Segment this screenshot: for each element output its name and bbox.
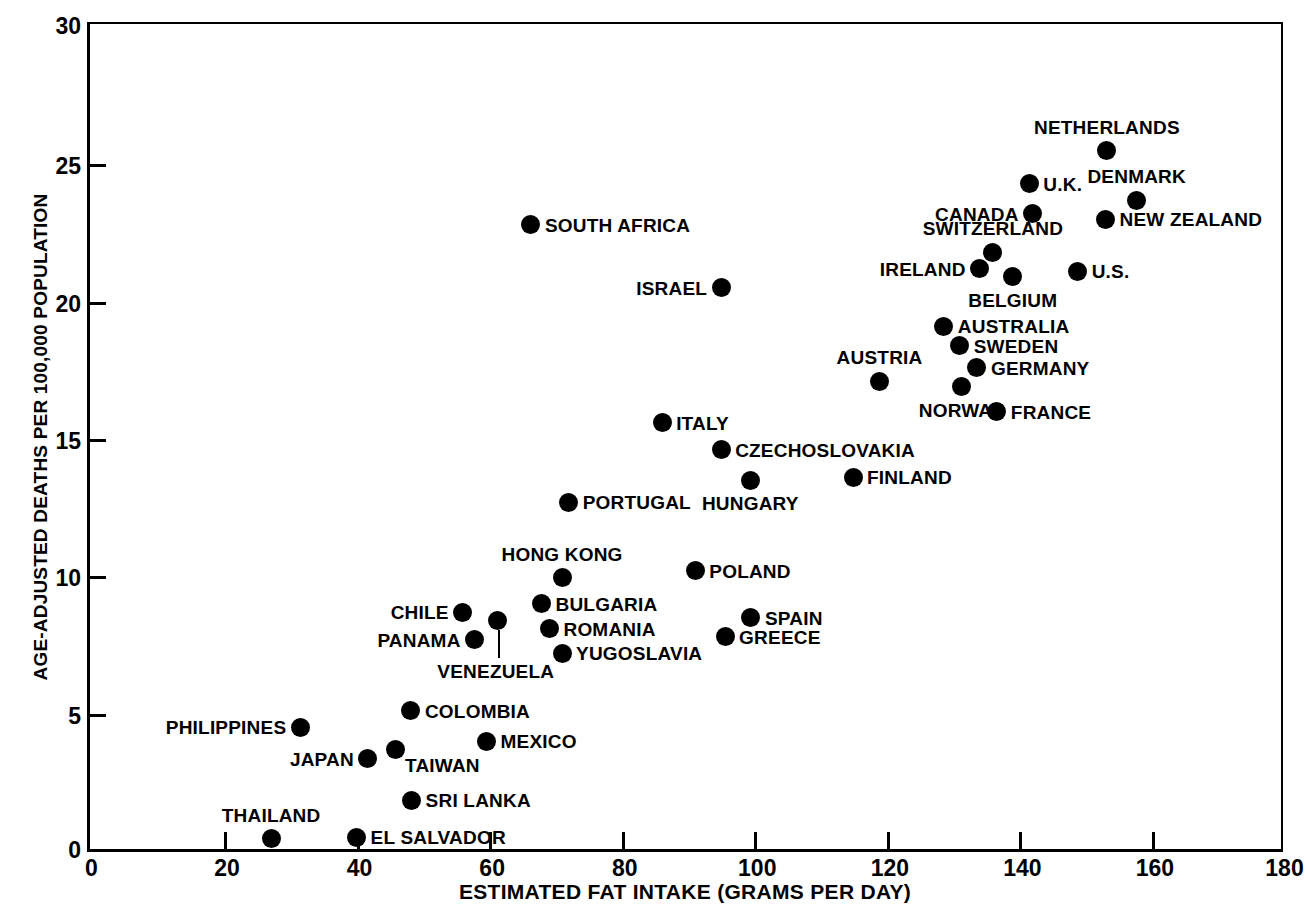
- data-point-label: U.K.: [1043, 174, 1082, 193]
- x-axis-tick-label: 40: [330, 857, 390, 880]
- data-point[interactable]: [559, 493, 578, 512]
- data-point-label: BULGARIA: [556, 594, 658, 613]
- data-point-label: SOUTH AFRICA: [545, 215, 690, 234]
- y-axis-title: AGE-ADJUSTED DEATHS PER 100,000 POPULATI…: [26, 22, 56, 852]
- data-point[interactable]: [686, 561, 705, 580]
- data-point[interactable]: [291, 718, 310, 737]
- data-point[interactable]: [741, 471, 760, 490]
- data-point-label: SPAIN: [765, 608, 823, 627]
- data-point[interactable]: [653, 413, 672, 432]
- data-point[interactable]: [970, 259, 989, 278]
- x-axis-tick-label: 60: [462, 857, 522, 880]
- x-axis-tick-label: 100: [727, 857, 787, 880]
- data-point[interactable]: [1003, 267, 1022, 286]
- data-point[interactable]: [521, 215, 540, 234]
- data-point[interactable]: [465, 630, 484, 649]
- data-point[interactable]: [532, 594, 551, 613]
- x-axis-tick-label: 140: [992, 857, 1052, 880]
- x-axis-tick: 160: [1152, 832, 1155, 849]
- y-axis-tick-label: 10: [55, 567, 81, 590]
- data-point[interactable]: [402, 791, 421, 810]
- y-axis-tick-label: 5: [68, 705, 81, 728]
- data-point-label: GERMANY: [991, 358, 1090, 377]
- data-point[interactable]: [716, 627, 735, 646]
- data-point[interactable]: [477, 732, 496, 751]
- data-point-label: THAILAND: [222, 806, 321, 825]
- data-point-label: SRI LANKA: [426, 791, 531, 810]
- data-point-label: PHILIPPINES: [166, 718, 286, 737]
- x-axis-tick-label: 20: [197, 857, 257, 880]
- y-axis-tick-label: 15: [55, 430, 81, 453]
- y-axis-tick: 10: [90, 576, 106, 579]
- data-point-label: DENMARK: [1087, 167, 1186, 186]
- y-axis-tick: 15: [90, 439, 106, 442]
- y-axis-tick: 25: [90, 164, 106, 167]
- data-point-label: TAIWAN: [405, 756, 480, 775]
- data-point[interactable]: [488, 611, 507, 630]
- y-axis-tick-label: 20: [55, 293, 81, 316]
- data-point[interactable]: [844, 468, 863, 487]
- data-point-label: HUNGARY: [702, 494, 799, 513]
- y-axis-tick-label: 30: [55, 15, 81, 38]
- x-axis-tick: 100: [754, 832, 757, 849]
- data-point-label: CZECHOSLOVAKIA: [735, 440, 915, 459]
- plot-area: 051015202530 020406080100120140160180 NE…: [87, 22, 1283, 852]
- data-point-label: JAPAN: [290, 749, 354, 768]
- data-point-label: ROMANIA: [563, 619, 655, 638]
- data-point-label: FRANCE: [1011, 402, 1091, 421]
- data-point[interactable]: [1096, 210, 1115, 229]
- x-axis-title: ESTIMATED FAT INTAKE (GRAMS PER DAY): [87, 880, 1283, 904]
- y-axis-tick: 5: [90, 714, 106, 717]
- data-point-label: ITALY: [676, 413, 729, 432]
- data-point-label: GREECE: [739, 627, 820, 646]
- data-point[interactable]: [401, 701, 420, 720]
- data-point-label: HONG KONG: [502, 545, 623, 564]
- data-point[interactable]: [934, 317, 953, 336]
- data-point[interactable]: [540, 619, 559, 638]
- data-point[interactable]: [712, 278, 731, 297]
- data-point-label: NEW ZEALAND: [1120, 210, 1263, 229]
- data-point-label: YUGOSLAVIA: [576, 644, 702, 663]
- x-axis-tick-label: 80: [595, 857, 655, 880]
- data-point-label: EL SALVADOR: [371, 828, 506, 847]
- data-point[interactable]: [262, 829, 281, 848]
- data-point[interactable]: [553, 644, 572, 663]
- data-point[interactable]: [870, 372, 889, 391]
- data-point-label: AUSTRALIA: [958, 317, 1070, 336]
- data-point[interactable]: [952, 377, 971, 396]
- data-point-label: MEXICO: [501, 732, 577, 751]
- data-point-label: BELGIUM: [968, 291, 1057, 310]
- data-point[interactable]: [967, 358, 986, 377]
- data-point[interactable]: [386, 740, 405, 759]
- data-point[interactable]: [1068, 262, 1087, 281]
- data-point[interactable]: [983, 243, 1002, 262]
- data-point[interactable]: [1127, 191, 1146, 210]
- data-point[interactable]: [950, 336, 969, 355]
- x-axis-tick: 80: [622, 832, 625, 849]
- data-point-label: VENEZUELA: [437, 662, 554, 681]
- x-axis-tick: 120: [887, 832, 890, 849]
- data-point[interactable]: [453, 603, 472, 622]
- data-point[interactable]: [347, 828, 366, 847]
- data-point-label: AUSTRIA: [837, 348, 923, 367]
- data-point-label: FINLAND: [867, 468, 952, 487]
- data-point[interactable]: [712, 440, 731, 459]
- data-point-label: SWITZERLAND: [923, 219, 1063, 238]
- data-point-label: PORTUGAL: [583, 493, 691, 512]
- y-axis-tick-label: 25: [55, 155, 81, 178]
- data-point-label: PANAMA: [377, 630, 460, 649]
- data-point-label: IRELAND: [880, 259, 966, 278]
- data-point-label: COLOMBIA: [425, 701, 530, 720]
- data-point[interactable]: [358, 749, 377, 768]
- label-leader-line: [498, 630, 500, 658]
- data-point[interactable]: [1020, 174, 1039, 193]
- data-point-label: POLAND: [709, 561, 790, 580]
- x-axis-tick: 140: [1019, 832, 1022, 849]
- data-point[interactable]: [553, 568, 572, 587]
- data-point[interactable]: [1097, 141, 1116, 160]
- x-axis-tick-label: 0: [62, 857, 122, 880]
- data-point-label: ISRAEL: [636, 278, 707, 297]
- data-point[interactable]: [741, 608, 760, 627]
- y-axis-tick: 20: [90, 302, 106, 305]
